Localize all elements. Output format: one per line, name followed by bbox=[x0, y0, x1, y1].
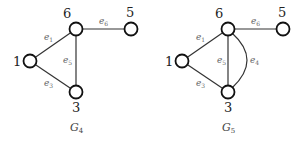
edge-label-e3: e3 bbox=[44, 78, 53, 89]
edge-e4 bbox=[232, 33, 247, 88]
node-3 bbox=[222, 86, 235, 99]
node-1 bbox=[176, 55, 189, 68]
node-label-1: 1 bbox=[13, 54, 21, 69]
node-label-3: 3 bbox=[224, 100, 232, 115]
node-label-3: 3 bbox=[72, 100, 80, 115]
edge-label-e3: e3 bbox=[196, 78, 205, 89]
node-5 bbox=[277, 23, 290, 36]
node-5 bbox=[125, 23, 138, 36]
node-6 bbox=[70, 23, 83, 36]
edge-label-e6: e6 bbox=[251, 16, 260, 27]
node-label-6: 6 bbox=[63, 6, 71, 21]
graph-caption-g4: G4 bbox=[70, 121, 84, 135]
edge-label-e4: e4 bbox=[250, 55, 259, 66]
graph-g5: e1 e3 e5 e6 e4 1 6 5 3 G5 bbox=[165, 5, 290, 135]
edge-label-e1: e1 bbox=[44, 32, 53, 43]
edge-label-e5: e5 bbox=[217, 55, 226, 66]
edge-e1 bbox=[30, 29, 76, 61]
graph-g4: e1 e3 e5 e6 1 6 5 3 G4 bbox=[13, 5, 138, 135]
edge-label-e6: e6 bbox=[99, 16, 108, 27]
node-label-5: 5 bbox=[126, 5, 134, 20]
node-label-6: 6 bbox=[215, 6, 223, 21]
edge-label-e5: e5 bbox=[63, 55, 72, 66]
edge-label-e1: e1 bbox=[196, 32, 205, 43]
node-6 bbox=[222, 23, 235, 36]
node-label-5: 5 bbox=[278, 5, 286, 20]
node-label-1: 1 bbox=[165, 54, 173, 69]
node-1 bbox=[24, 55, 37, 68]
graph-caption-g5: G5 bbox=[222, 121, 235, 135]
node-3 bbox=[70, 86, 83, 99]
diagram-canvas: e1 e3 e5 e6 1 6 5 3 G4 e1 e3 e5 e6 e4 1 … bbox=[0, 0, 305, 142]
